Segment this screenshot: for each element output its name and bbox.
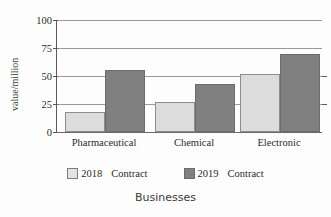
y-tick-label: 25 bbox=[22, 99, 52, 110]
y-tick-0 bbox=[53, 132, 58, 133]
category-label-pharmaceutical: Pharmaceutical bbox=[72, 137, 137, 148]
y-tick-label: 0 bbox=[22, 127, 52, 138]
bar-group-electronic bbox=[240, 20, 320, 132]
y-tick-label: 100 bbox=[22, 15, 52, 26]
bar-2018-electronic bbox=[240, 74, 280, 132]
legend-item-2018: 2018 Contract bbox=[67, 168, 147, 179]
legend-year-2019: 2019 bbox=[198, 168, 219, 179]
x-axis-title: Businesses bbox=[0, 191, 331, 204]
legend-swatch-2019-icon bbox=[184, 168, 195, 179]
y-axis-tick-labels: 100 75 50 25 0 bbox=[18, 20, 52, 132]
x-axis-category-labels: Pharmaceutical Chemical Electronic bbox=[56, 137, 322, 155]
legend-item-2019: 2019 Contract bbox=[184, 168, 264, 179]
plot-area bbox=[56, 20, 322, 132]
bar-group-pharmaceutical bbox=[65, 20, 145, 132]
legend-label-2018: Contract bbox=[111, 168, 147, 179]
bar-2018-pharmaceutical bbox=[65, 112, 105, 132]
bar-2019-pharmaceutical bbox=[105, 70, 145, 132]
y-tick-right-50 bbox=[322, 76, 327, 77]
y-tick-label: 75 bbox=[22, 43, 52, 54]
chart-legend: 2018 Contract 2019 Contract bbox=[0, 168, 331, 179]
legend-label-2019: Contract bbox=[228, 168, 264, 179]
bars-layer bbox=[57, 20, 322, 132]
bar-2018-chemical bbox=[155, 102, 195, 132]
bar-2019-electronic bbox=[280, 54, 320, 132]
category-label-chemical: Chemical bbox=[174, 137, 214, 148]
bar-2019-chemical bbox=[195, 84, 235, 132]
y-tick-right-25 bbox=[322, 104, 327, 105]
legend-swatch-2018-icon bbox=[67, 168, 78, 179]
y-tick-label: 50 bbox=[22, 71, 52, 82]
axis-baseline bbox=[57, 132, 322, 133]
bar-chart: value/million 100 75 50 25 0 bbox=[0, 0, 331, 217]
legend-year-2018: 2018 bbox=[81, 168, 102, 179]
bar-group-chemical bbox=[155, 20, 235, 132]
category-label-electronic: Electronic bbox=[257, 137, 300, 148]
